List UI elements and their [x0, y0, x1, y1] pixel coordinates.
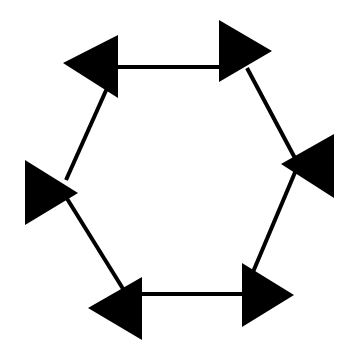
lower-right-edge: [253, 170, 296, 272]
bottom-right-arrowhead-icon: [242, 263, 294, 327]
upper-right-edge: [247, 68, 296, 160]
top-right-arrowhead-icon: [219, 20, 272, 82]
diagram-canvas: Hexagon of six line segments with six fi…: [0, 0, 356, 356]
bottom-left-arrowhead-icon: [88, 277, 142, 340]
lower-left-edge: [66, 197, 125, 292]
edges-group: [66, 67, 296, 294]
top-left-arrowhead-icon: [63, 35, 118, 98]
hexagon-arrow-diagram: [0, 0, 356, 356]
upper-left-edge: [66, 86, 108, 180]
